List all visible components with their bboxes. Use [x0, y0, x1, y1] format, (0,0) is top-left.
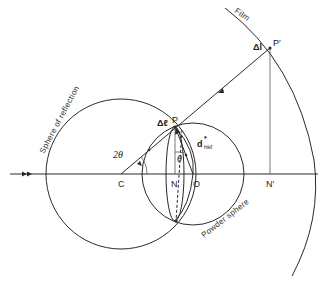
label-N: N	[171, 179, 178, 189]
label-d-main: d	[197, 139, 203, 149]
label-sphere-of-reflection-a: Sphere of reflection	[38, 84, 81, 155]
sphere-of-reflection-text: Sphere of reflection	[38, 84, 81, 155]
label-C: C	[118, 179, 125, 189]
label-d-hkl-star: d * hkℓ	[197, 135, 212, 150]
label-P-prime: P′	[273, 38, 281, 48]
point-bottom-dot	[174, 219, 177, 222]
label-film: Film	[233, 6, 252, 23]
point-marker	[185, 154, 188, 157]
label-O: O	[193, 179, 200, 189]
label-2theta: 2θ	[113, 149, 123, 160]
ewald-construction-diagram: P P′ C N O N′ 2θ θ Δl Δℓ d * hkℓ Film Sp…	[0, 0, 322, 281]
label-P: P	[172, 115, 178, 125]
point-P-dot	[173, 125, 176, 128]
point-P-prime-dot	[268, 46, 271, 49]
diffracted-beam-arrow-icon	[218, 88, 224, 93]
label-d-sub: hkℓ	[204, 144, 212, 150]
label-theta: θ	[177, 153, 182, 164]
label-d-star: *	[204, 135, 207, 142]
label-powder-sphere: Powder sphere	[200, 197, 251, 240]
angle-arrow-icon	[137, 161, 142, 166]
incident-beam-arrow-icon	[22, 172, 32, 177]
point-marker	[148, 149, 151, 152]
diffracted-beam	[121, 48, 270, 174]
label-delta-l-script: Δℓ	[157, 118, 168, 128]
label-delta-l: Δl	[253, 42, 262, 52]
label-N-prime: N′	[266, 179, 274, 189]
diagram-canvas: P P′ C N O N′ 2θ θ Δl Δℓ d * hkℓ Film Sp…	[0, 0, 322, 281]
